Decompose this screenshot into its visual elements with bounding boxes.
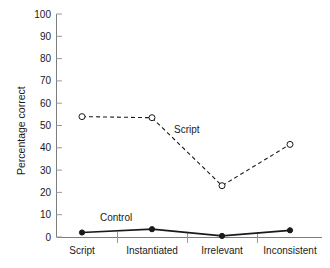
data-point-control	[149, 227, 154, 232]
y-axis-title: Percentage correct	[15, 86, 27, 175]
y-tick-label: 100	[34, 9, 51, 20]
y-tick-label: 60	[40, 98, 52, 109]
y-tick-label: 20	[40, 187, 52, 198]
chart-figure: Percentage correct 100 90 80 70 60 50 40…	[0, 0, 330, 268]
y-tick-label: 10	[40, 209, 52, 220]
x-tick-label: Script	[69, 245, 95, 256]
data-point-control	[79, 230, 84, 235]
y-tick-label: 0	[45, 232, 51, 243]
x-tick-label: Instantiated	[126, 245, 178, 256]
y-tick-label: 30	[40, 165, 52, 176]
data-point-script	[287, 141, 293, 147]
y-tick-label: 80	[40, 53, 52, 64]
data-point-script	[79, 114, 85, 120]
y-tick-label: 90	[40, 31, 52, 42]
x-tick-label: Inconsistent	[263, 245, 317, 256]
y-tick-label: 40	[40, 142, 52, 153]
series-label-script: Script	[174, 124, 200, 135]
y-tick-label: 50	[40, 120, 52, 131]
data-point-control	[287, 228, 292, 233]
data-point-control	[219, 233, 224, 238]
data-point-script	[149, 115, 155, 121]
x-tick-label: Irrelevant	[201, 245, 243, 256]
y-tick-label: 70	[40, 75, 52, 86]
chart-canvas: Percentage correct 100 90 80 70 60 50 40…	[0, 0, 330, 268]
data-point-script	[219, 183, 225, 189]
series-label-control: Control	[100, 212, 132, 223]
series-line-control	[82, 229, 290, 236]
